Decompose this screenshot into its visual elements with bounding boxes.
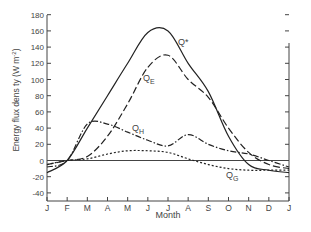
series-line-qstar [47,28,289,173]
label-qe: QE [143,73,155,85]
x-tick-label: J [287,203,291,213]
axis-ticks: 180160140120100806040200-20-40JFMAMJJASO… [31,11,291,213]
series-line-qe [47,55,289,169]
x-tick-label: J [146,203,150,213]
y-tick-label: 60 [35,108,44,117]
x-tick-label: M [84,203,91,213]
x-tick-label: S [205,203,211,213]
y-tick-label: 140 [31,43,45,52]
y-tick-label: -40 [32,189,44,198]
y-tick-label: 100 [31,76,45,85]
x-tick-label: A [105,203,111,213]
label-qg: QG [226,170,238,182]
x-tick-label: N [246,203,252,213]
x-tick-label: F [65,203,70,213]
x-axis-label: Month [155,210,180,220]
series-lines [47,28,289,173]
y-tick-label: 20 [35,140,44,149]
axes [47,15,289,201]
y-tick-label: 80 [35,92,44,101]
y-tick-label: 40 [35,124,44,133]
energy-flux-chart: 180160140120100806040200-20-40JFMAMJJASO… [0,0,311,232]
y-tick-label: -20 [32,173,44,182]
label-qh: QH [132,123,144,135]
y-tick-label: 180 [31,11,45,20]
y-tick-label: 120 [31,59,45,68]
y-tick-label: 0 [40,157,45,166]
label-qstar: Q* [178,37,189,47]
x-tick-label: D [266,203,272,213]
x-tick-label: A [185,203,191,213]
x-tick-label: M [124,203,131,213]
x-tick-label: J [45,203,49,213]
y-tick-label: 160 [31,27,45,36]
x-tick-label: O [225,203,232,213]
y-axis-label: Energy flux dens ty (W m-2) [11,48,21,151]
